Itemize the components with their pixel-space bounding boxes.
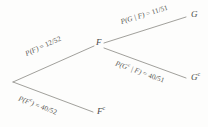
branch-line-f-to-g — [104, 17, 186, 43]
node-label-g-complement-superscript: c — [198, 71, 201, 77]
node-label-g-complement: Gc — [191, 71, 200, 82]
node-label-g-text: G — [191, 9, 198, 19]
node-label-f-complement: Fc — [97, 105, 105, 116]
node-label-f-text: F — [96, 37, 102, 47]
probability-tree-figure: P(G | F) = 11/51 P(Gc | F) = 40/51 P(F) … — [0, 0, 208, 127]
node-label-f: F — [96, 38, 102, 47]
node-label-g: G — [191, 10, 198, 19]
node-label-f-complement-superscript: c — [103, 105, 106, 111]
